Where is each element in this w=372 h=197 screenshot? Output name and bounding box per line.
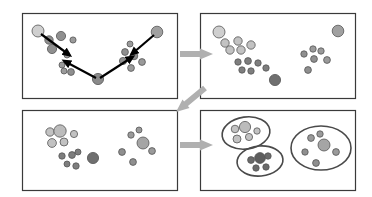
data-point (73, 163, 79, 169)
data-point (248, 157, 255, 164)
data-point (54, 125, 66, 137)
data-point (59, 62, 65, 68)
data-point (255, 153, 266, 164)
data-point (137, 137, 149, 149)
data-point (130, 159, 137, 166)
data-point (136, 127, 142, 133)
data-point (75, 149, 81, 155)
data-point (269, 74, 280, 85)
data-point (226, 46, 234, 54)
data-point (247, 41, 255, 49)
data-point (313, 160, 320, 167)
data-point (239, 67, 245, 73)
data-point (318, 139, 330, 151)
data-point (149, 148, 156, 155)
data-point (128, 65, 135, 72)
data-point (265, 153, 271, 159)
data-point (308, 135, 315, 142)
data-point (302, 149, 308, 155)
points-after-first-shift (201, 14, 356, 99)
data-point (46, 128, 54, 136)
data-point (239, 121, 250, 132)
data-point (213, 26, 225, 38)
data-point (263, 164, 269, 170)
data-point (70, 37, 76, 43)
data-point (59, 153, 65, 159)
data-point (70, 130, 77, 137)
final-clusters-with-boundaries (201, 111, 356, 191)
data-point (139, 59, 146, 66)
data-point (231, 125, 239, 133)
data-point (255, 60, 261, 66)
data-point (128, 132, 134, 138)
initial-points-with-shift-vectors (23, 14, 178, 99)
data-point (127, 41, 133, 47)
data-point (332, 25, 344, 37)
data-point (92, 73, 103, 84)
data-point (311, 56, 318, 63)
data-point (253, 165, 259, 171)
data-point (234, 37, 242, 45)
figure-canvas (0, 0, 372, 197)
data-point (60, 138, 68, 146)
data-point (254, 128, 260, 134)
data-point (48, 139, 57, 148)
data-point (245, 58, 252, 65)
data-point (64, 161, 70, 167)
data-point (87, 152, 98, 163)
data-point (324, 57, 331, 64)
data-point (263, 65, 269, 71)
data-point (310, 46, 316, 52)
data-point (61, 68, 67, 74)
data-point (333, 149, 340, 156)
data-point (237, 46, 245, 54)
data-point (245, 133, 252, 140)
panel-frame (201, 14, 356, 99)
data-point (68, 69, 75, 76)
data-point (235, 59, 241, 65)
data-point (119, 149, 126, 156)
data-point (318, 48, 324, 54)
data-point (317, 131, 323, 137)
clustering-diagram (0, 0, 372, 197)
data-point (69, 152, 76, 159)
data-point (301, 51, 307, 57)
data-point (305, 67, 312, 74)
data-point (56, 31, 65, 40)
data-point (233, 135, 241, 143)
data-point (248, 68, 254, 74)
panel-frame (23, 14, 178, 99)
data-point (122, 49, 129, 56)
points-after-convergence (23, 111, 178, 191)
